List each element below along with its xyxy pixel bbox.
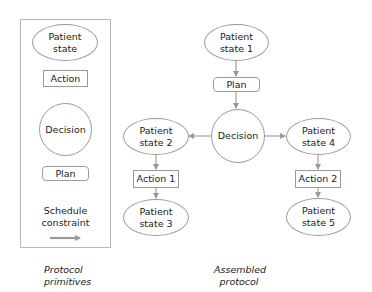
node-patient-state-4-label: Patient state 4 — [302, 125, 335, 149]
node-action-2-label: Action 2 — [299, 173, 338, 185]
node-patient-state-2: Patient state 2 — [123, 118, 189, 155]
protocol-diagram: Patient state Action Decision Plan Sched… — [0, 0, 372, 292]
node-patient-state-3-label: Patient state 3 — [139, 206, 172, 230]
node-plan: Plan — [213, 77, 260, 92]
node-patient-state-3: Patient state 3 — [123, 199, 189, 236]
node-patient-state-2-label: Patient state 2 — [139, 125, 172, 149]
node-decision-label: Decision — [218, 130, 258, 142]
node-patient-state-1: Patient state 1 — [204, 24, 269, 61]
node-action-1: Action 1 — [133, 170, 179, 188]
node-plan-label: Plan — [226, 79, 246, 91]
node-patient-state-1-label: Patient state 1 — [220, 31, 253, 55]
assembled-caption: Assembled protocol — [214, 264, 264, 288]
node-patient-state-5: Patient state 5 — [286, 198, 351, 236]
node-decision: Decision — [211, 109, 265, 163]
node-action-1-label: Action 1 — [137, 173, 176, 185]
node-action-2: Action 2 — [295, 170, 341, 188]
node-patient-state-4: Patient state 4 — [286, 118, 351, 155]
node-patient-state-5-label: Patient state 5 — [302, 205, 335, 229]
